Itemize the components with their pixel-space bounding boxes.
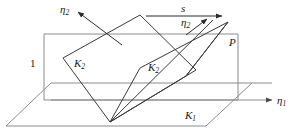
strut-long-diagonal	[110, 20, 213, 122]
k1-right-edge	[206, 83, 252, 126]
label-eta2-right: η2	[181, 17, 190, 28]
label-plane-p: P	[229, 37, 236, 48]
label-k2-right: K2	[148, 62, 159, 73]
k2r-left-edge	[110, 68, 140, 122]
k2l-top-edge	[63, 15, 140, 58]
label-height-one: 1	[30, 58, 36, 69]
k2-struts	[110, 20, 228, 122]
label-s: s	[181, 3, 185, 14]
label-k2-left: K2	[74, 58, 85, 69]
geometric-figure: η2 s η2 P 1 K2 K2 K1 η1	[0, 0, 297, 131]
k2-plane-right	[110, 22, 228, 122]
label-k1: K1	[185, 110, 196, 121]
label-eta1: η1	[277, 95, 286, 106]
label-eta2-left: η2	[60, 4, 69, 15]
k2l-left-edge	[63, 58, 110, 122]
